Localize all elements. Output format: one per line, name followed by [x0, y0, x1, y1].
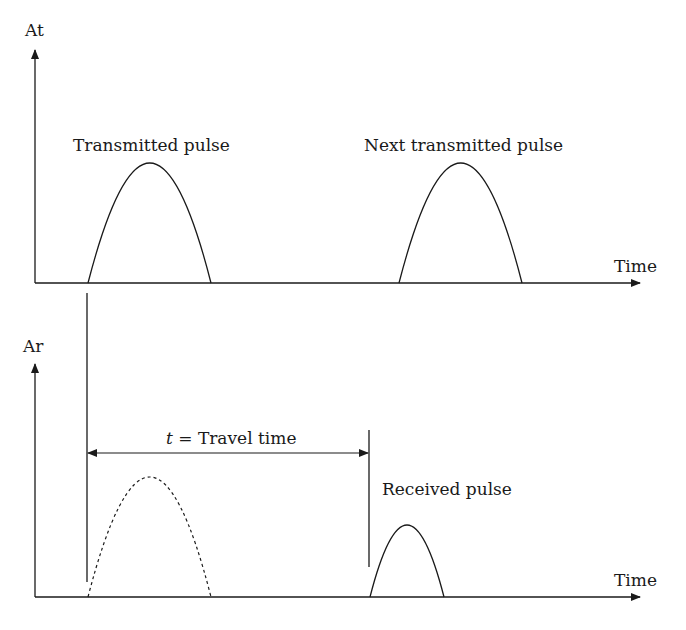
received-pulse-label: Received pulse	[382, 479, 512, 499]
top-panel: At Time Transmitted pulse Next transmitt…	[24, 20, 657, 283]
bottom-y-axis-label: Ar	[22, 336, 44, 356]
transmitted-pulse-label: Transmitted pulse	[73, 135, 230, 155]
top-y-axis-label: At	[24, 20, 44, 40]
transmitted-pulse	[88, 163, 211, 283]
reference-pulse-dashed	[88, 477, 211, 597]
top-x-axis-label: Time	[614, 256, 657, 276]
bottom-x-axis-label: Time	[614, 570, 657, 590]
travel-time-eq: = Travel time	[173, 428, 297, 448]
bottom-panel: Ar Time t = Travel time Received pulse	[22, 293, 657, 597]
received-pulse	[370, 525, 444, 597]
radar-pulse-diagram: At Time Transmitted pulse Next transmitt…	[0, 0, 686, 630]
travel-time-label: t = Travel time	[166, 428, 296, 448]
next-transmitted-pulse	[399, 163, 522, 283]
next-pulse-label: Next transmitted pulse	[364, 135, 563, 155]
